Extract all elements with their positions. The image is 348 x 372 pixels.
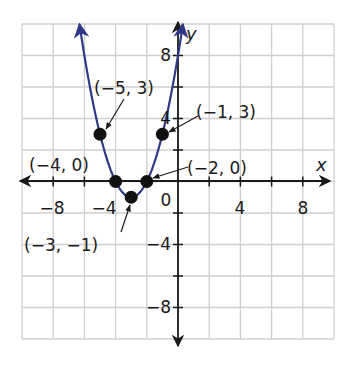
data-points xyxy=(94,128,169,204)
y-tick-label-neg4: −4 xyxy=(146,234,171,254)
y-tick-label-neg8: −8 xyxy=(146,297,171,317)
y-tick-label-8: 8 xyxy=(160,45,171,65)
x-tick-label-neg4: −4 xyxy=(91,198,116,218)
origin-label: 0 xyxy=(161,190,172,210)
data-point xyxy=(156,128,169,141)
data-point xyxy=(125,191,138,204)
point-label-neg4-0: (−4, 0) xyxy=(29,155,89,175)
pointer-neg3-neg1 xyxy=(121,205,130,232)
x-tick-label-4: 4 xyxy=(235,198,246,218)
x-tick-label-neg8: −8 xyxy=(39,198,64,218)
y-axis-label: y xyxy=(185,23,197,44)
y-tick-label-4: 4 xyxy=(160,108,171,128)
x-axis-label: x xyxy=(315,154,327,175)
x-tick-label-8: 8 xyxy=(298,198,309,218)
pointer-neg2-0 xyxy=(153,167,188,178)
data-point xyxy=(140,175,153,188)
point-label-neg2-0: (−2, 0) xyxy=(187,158,247,178)
point-label-neg3-neg1: (−3, −1) xyxy=(24,235,98,255)
data-point xyxy=(94,128,107,141)
point-label-neg5-3: (−5, 3) xyxy=(94,78,154,98)
parabola-graph: −8 −4 0 4 8 8 4 −4 −8 x y (−5, 3) (−1, 3… xyxy=(0,0,348,372)
point-label-neg1-3: (−1, 3) xyxy=(196,102,256,122)
data-point xyxy=(109,175,122,188)
